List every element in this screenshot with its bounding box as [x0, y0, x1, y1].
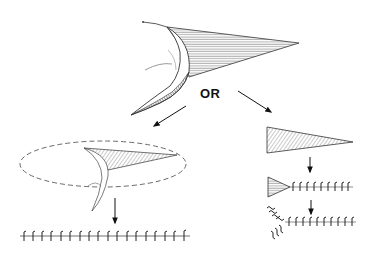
right-chain-2-units — [289, 217, 354, 226]
or-label: OR — [200, 86, 221, 101]
arrow-to-right-path — [238, 91, 271, 112]
right-branch-lower — [271, 225, 283, 239]
left-path-figure — [20, 141, 190, 241]
right-path-figure — [267, 127, 356, 239]
left-fiber-curl — [88, 183, 101, 186]
right-branch-upper — [267, 207, 284, 221]
right-small-triangle — [268, 177, 290, 197]
thin-fiber-1 — [145, 64, 172, 70]
leading-strand — [143, 22, 167, 27]
left-chain-units — [24, 230, 186, 241]
diagram-canvas: OR — [0, 0, 379, 258]
arrow-to-left-path — [154, 106, 186, 126]
right-chain-1-units — [293, 182, 350, 191]
right-hatched-triangle — [267, 127, 353, 153]
thin-fiber-2 — [168, 50, 176, 70]
